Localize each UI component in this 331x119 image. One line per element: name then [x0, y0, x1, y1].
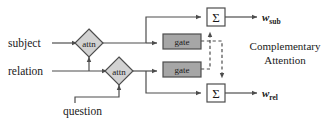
diagram-canvas: attn attn gate gate Σ Σ — [0, 0, 331, 119]
attn-node-subject[interactable]: attn — [75, 29, 103, 57]
gate-node-relation[interactable]: gate — [163, 62, 201, 77]
gate-relation-label: gate — [175, 65, 190, 75]
dashed-edges — [201, 32, 222, 78]
sum-node-subject[interactable]: Σ — [207, 8, 225, 26]
complementary-attention-diagram: attn attn gate gate Σ Σ — [0, 0, 331, 119]
annotation-complementary-attention: Complementary Attention — [250, 40, 321, 66]
solid-edges — [52, 17, 257, 103]
sum-node-relation[interactable]: Σ — [207, 84, 225, 102]
output-label-w-rel: wrel — [262, 87, 278, 102]
edge-gate-subject-to-sum-relation — [201, 41, 222, 78]
input-label-question: question — [63, 105, 102, 118]
attention-nodes: attn attn — [75, 29, 133, 85]
edge-gate-relation-to-sum-subject — [201, 32, 210, 69]
gate-subject-label: gate — [175, 37, 190, 47]
sum-subject-label: Σ — [212, 10, 220, 25]
output-label-w-sub: wsub — [262, 11, 281, 26]
annotation-line-1: Complementary — [250, 40, 321, 52]
gate-nodes: gate gate — [163, 34, 201, 77]
output-subscript-w-rel: rel — [269, 93, 278, 102]
gate-node-subject[interactable]: gate — [163, 34, 201, 49]
attn-node-relation[interactable]: attn — [105, 57, 133, 85]
attn-relation-label: attn — [112, 67, 126, 77]
input-label-subject: subject — [8, 37, 41, 50]
edge-question-to-attn-relation — [75, 85, 119, 103]
sum-relation-label: Σ — [212, 86, 220, 101]
annotation-line-2: Attention — [264, 54, 306, 66]
attn-subject-label: attn — [82, 39, 96, 49]
output-subscript-w-sub: sub — [269, 17, 280, 26]
input-label-relation: relation — [8, 65, 43, 77]
